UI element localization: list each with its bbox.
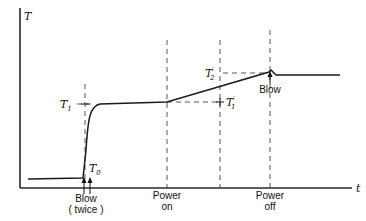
t1-label: T1 [60, 98, 72, 113]
power-on-label-line2: on [161, 201, 172, 212]
x-axis-label: t [356, 182, 361, 195]
power-off-label-line2: off [265, 201, 276, 212]
blow-top-label-visible: Blow [259, 84, 281, 95]
t0-label: T0 [89, 162, 101, 177]
t2-prime-label: T′2 [205, 66, 215, 82]
power-off-label-line1: Power [256, 190, 285, 201]
blow-arrow-2-head [88, 177, 93, 183]
blow-twice-label-line1: Blow [75, 193, 97, 204]
power-on-label-line1: Power [153, 190, 182, 201]
temperature-time-diagram: T t T1 T0 T′1 T′2 Blow ( twice ) Power o… [0, 0, 366, 221]
temperature-curve [28, 70, 340, 179]
y-axis-label: T [24, 10, 33, 23]
blow-twice-label-line2: ( twice ) [69, 204, 104, 215]
t1-prime-label: T′1 [226, 95, 235, 111]
